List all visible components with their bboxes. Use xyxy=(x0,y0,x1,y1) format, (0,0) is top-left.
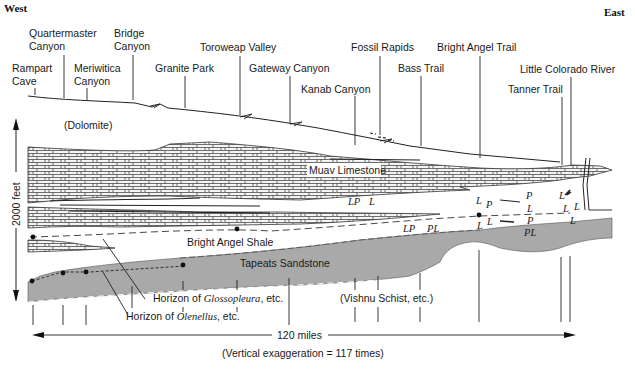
east-label: East xyxy=(604,6,625,18)
formation-dolomite: (Dolomite) xyxy=(64,119,112,131)
marker-l: L xyxy=(368,196,375,207)
olenellus-dot xyxy=(84,270,89,275)
location-rampart-cave-line2: Cave xyxy=(12,75,37,87)
marker-lp: LP xyxy=(402,223,416,234)
grand-canyon-cross-section: West East Rampart Cave Quartermaster Can… xyxy=(0,0,635,369)
location-meriwitica-canyon: Meriwitica xyxy=(74,62,121,74)
formation-bright-angel-shale: Bright Angel Shale xyxy=(187,236,274,248)
vertical-scale: 2000 feet xyxy=(9,118,23,302)
formation-vishnu-schist: (Vishnu Schist, etc.) xyxy=(340,292,433,304)
vertical-scale-label: 2000 feet xyxy=(10,182,22,226)
location-quartermaster-canyon: Quartermaster xyxy=(29,27,97,39)
location-granite-park: Granite Park xyxy=(155,62,215,74)
marker-p: P xyxy=(485,199,493,210)
marker-l: L xyxy=(486,216,493,227)
location-little-colorado-river: Little Colorado River xyxy=(520,63,616,75)
marker-l: L xyxy=(558,190,565,201)
vertical-exaggeration-note: (Vertical exaggeration = 117 times) xyxy=(222,347,384,359)
olenellus-dot xyxy=(61,271,66,276)
formation-tapeats-sandstone: Tapeats Sandstone xyxy=(240,257,330,269)
muav-west-sliver xyxy=(28,240,115,252)
marker-l: L xyxy=(569,215,576,226)
location-tanner-trail: Tanner Trail xyxy=(508,83,563,95)
muav-lower-tongue xyxy=(28,207,440,228)
west-label: West xyxy=(4,2,28,14)
location-meriwitica-canyon-line2: Canyon xyxy=(74,75,110,87)
location-bright-angel-trail: Bright Angel Trail xyxy=(437,41,516,53)
formation-muav-limestone: Muav Limestone xyxy=(309,164,386,176)
location-bridge-canyon: Bridge xyxy=(114,27,145,39)
glossopleura-dot xyxy=(235,227,240,232)
olenellus-dot xyxy=(181,263,186,268)
horizon-glossopleura-label: Horizon of Glossopleura, etc. xyxy=(153,292,283,304)
location-toroweap-valley: Toroweap Valley xyxy=(200,41,277,53)
location-labels: Rampart Cave Quartermaster Canyon Meriwi… xyxy=(12,27,616,95)
glossopleura-dot xyxy=(477,213,482,218)
location-bass-trail: Bass Trail xyxy=(398,62,444,74)
arrow-up-icon xyxy=(13,118,19,130)
location-gateway-canyon: Gateway Canyon xyxy=(249,62,330,74)
marker-lp: LP xyxy=(347,196,361,207)
location-rampart-cave: Rampart xyxy=(12,62,52,74)
marker-l: L xyxy=(526,203,533,214)
marker-p: P xyxy=(526,215,534,226)
arrow-down-icon xyxy=(13,290,19,302)
marker-l: L xyxy=(573,201,580,212)
location-kanab-canyon: Kanab Canyon xyxy=(301,83,371,95)
horizontal-scale-label: 120 miles xyxy=(277,329,322,341)
marker-pl: PL xyxy=(523,227,536,238)
marker-l: L xyxy=(475,195,482,206)
glossopleura-dot xyxy=(31,235,36,240)
marker-l: L xyxy=(476,220,483,231)
arrow-right-icon xyxy=(564,332,576,338)
marker-p: P xyxy=(525,190,533,201)
location-quartermaster-canyon-line2: Canyon xyxy=(29,40,65,52)
arrow-left-icon xyxy=(32,332,44,338)
marker-pl: PL xyxy=(426,223,439,234)
olenellus-dot xyxy=(30,279,35,284)
marker-l: L xyxy=(562,203,569,214)
location-bridge-canyon-line2: Canyon xyxy=(114,40,150,52)
location-fossil-rapids: Fossil Rapids xyxy=(351,41,414,53)
horizontal-scale: 120 miles xyxy=(32,329,576,341)
